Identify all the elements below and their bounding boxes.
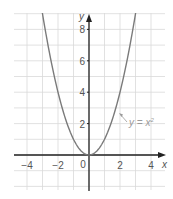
y-tick-label: 6 [79,56,85,67]
tick-labels: −4−20242468 [21,24,154,171]
x-tick-label: −2 [52,160,64,171]
x-tick-label: −4 [21,160,33,171]
y-axis-arrow-icon [86,14,92,22]
y-tick-label: 4 [79,87,85,98]
parabola-chart: −4−20242468 y = x2 x y [0,0,173,199]
axes [14,14,166,191]
y-tick-label: 8 [79,24,85,35]
x-axis-label: x [161,159,168,170]
curve-annotation: y = x2 [119,113,154,128]
curve-label-exponent: 2 [149,117,154,123]
x-tick-label: 4 [148,160,154,171]
origin-label: 0 [80,159,86,170]
x-tick-label: 2 [117,160,123,171]
y-axis-label: y [78,11,85,22]
y-tick-label: 2 [79,119,85,130]
x-axis-arrow-icon [158,152,166,158]
curve-label: y = x2 [128,117,154,128]
